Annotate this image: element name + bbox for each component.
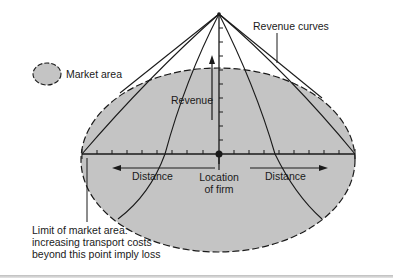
distance-left-label: Distance: [132, 170, 173, 182]
market-area-legend-swatch: [33, 63, 61, 85]
market-area-legend-label: Market area: [66, 68, 122, 80]
apex-dot-icon: [217, 12, 221, 16]
revenue-arrowhead-icon: [209, 55, 215, 64]
limit-line1: Limit of market area:: [32, 224, 160, 236]
revenue-curves-label: Revenue curves: [253, 20, 329, 32]
distance-right-label: Distance: [265, 170, 306, 182]
revenue-axis-label: Revenue: [171, 94, 213, 106]
firm-location-dot-icon: [216, 151, 223, 158]
limit-of-market-area-label: Limit of market area: increasing transpo…: [32, 224, 160, 260]
market-area-diagram: Market area Revenue curves Revenue Dista…: [0, 0, 393, 278]
location-of-firm-line2: of firm: [196, 183, 242, 195]
location-of-firm-label: Location of firm: [196, 171, 242, 195]
limit-line3: beyond this point imply loss: [32, 248, 160, 260]
location-of-firm-line1: Location: [196, 171, 242, 183]
limit-line2: increasing transport costs: [32, 236, 160, 248]
